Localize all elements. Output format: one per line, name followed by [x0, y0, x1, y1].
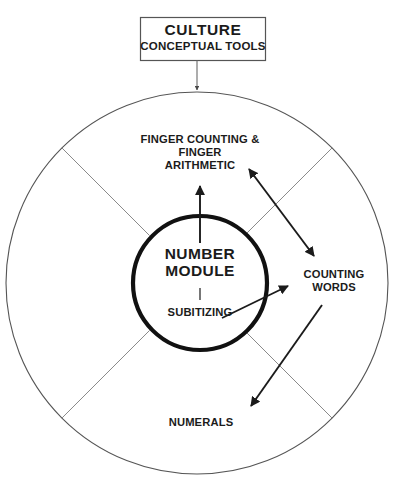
core-subtitle-subitizing: SUBITIZING	[152, 306, 248, 319]
sector-label-finger-counting-arithmetic: FINGER COUNTING & FINGER ARITHMETIC	[117, 133, 283, 173]
diagram-canvas: CULTURE CONCEPTUAL TOOLS FINGER COUNTING…	[0, 0, 397, 491]
sector-label-numerals: NUMERALS	[140, 416, 262, 429]
culture-subtitle: CONCEPTUAL TOOLS	[140, 40, 266, 54]
spoke-lower-right	[244, 330, 332, 418]
culture-title: CULTURE	[140, 21, 266, 39]
core-title-number-module: NUMBER MODULE	[148, 245, 252, 280]
arrow-counting-words-to-numerals	[251, 305, 322, 406]
sector-label-counting-words: COUNTING WORDS	[288, 268, 380, 294]
arrow-finger-counting-words-bidirectional	[249, 169, 314, 256]
spoke-lower-left	[62, 330, 150, 418]
